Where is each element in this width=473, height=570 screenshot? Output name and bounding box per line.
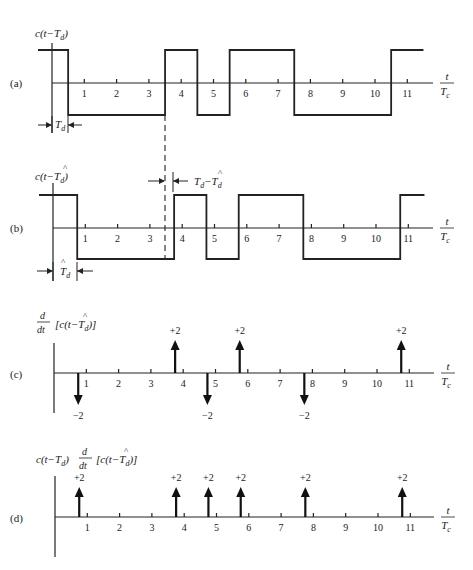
x-tick-label: 8 [309,233,314,244]
arrow-up-icon [236,487,245,497]
x-tick-label: 1 [85,522,90,533]
x-tick-label: 10 [371,233,381,244]
impulse-value-label: +2 [235,472,246,483]
arrow-up-icon [235,340,244,350]
x-tick-label: 10 [373,522,383,533]
x-tick-label: 2 [114,88,119,99]
x-tick-label: 2 [117,522,122,533]
x-axis-label-num: t [446,360,450,372]
ylabel-a: c(t−Td) [35,27,68,42]
svg-text:^: ^ [218,168,223,178]
svg-text:^: ^ [83,311,88,321]
panel-label-b: (b) [10,222,23,235]
x-tick-label: 3 [147,233,152,244]
x-tick-label: 9 [342,378,347,389]
x-tick-label: 10 [372,378,382,389]
x-tick-label: 5 [213,378,218,389]
x-tick-label: 2 [116,378,121,389]
panel-c-impulses: 1234567891011tTc−2+2−2+2−2+2 [54,325,455,421]
impulse-value-label: +2 [203,472,214,483]
arrow-up-icon [75,487,84,497]
impulse-value-label: −2 [202,410,213,421]
td-annotation: Td [38,116,82,133]
x-tick-label: 11 [404,378,414,389]
svg-text:[c(t−Td)]: [c(t−Td)] [96,453,137,468]
svg-text:c(t−Td): c(t−Td) [35,27,68,42]
x-tick-label: 4 [182,522,187,533]
x-tick-label: 4 [180,233,185,244]
panel-d-impulses: 1234567891011tTc+2+2+2+2+2+2 [55,472,455,557]
x-tick-label: 4 [179,88,184,99]
svg-text:d: d [40,310,46,321]
arrow-up-icon [204,487,213,497]
ylabel-d: c(t−Td) d dt [c(t−Td)] ^ [36,446,137,471]
svg-text:c(t−Td): c(t−Td) [36,453,69,468]
x-tick-label: 5 [211,88,216,99]
x-axis-label-den: Tc [440,230,450,245]
svg-text:Td: Td [60,265,71,280]
x-tick-label: 8 [308,88,313,99]
waveform-path [39,195,424,259]
svg-text:d: d [82,446,88,457]
panel-label-c: (c) [10,368,23,381]
ylabel-b: c(t−Td) ^ [35,163,68,185]
x-tick-label: 1 [82,88,87,99]
panel-label-a: (a) [10,77,23,90]
x-tick-label: 9 [340,88,345,99]
x-tick-label: 5 [212,233,217,244]
ylabel-c: d dt [c(t−Td)] ^ [37,310,96,335]
arrow-up-icon [398,487,407,497]
x-tick-label: 8 [311,522,316,533]
x-tick-label: 1 [83,233,88,244]
x-axis-label-den: Tc [441,375,451,390]
panel-a-waveform: 1234567891011tTc [38,43,454,133]
td-hat-annotation: Td ^ [37,257,93,281]
arrow-up-icon [397,340,406,350]
svg-text:dt: dt [37,324,45,335]
impulse-value-label: +2 [171,472,182,483]
x-tick-label: 2 [115,233,120,244]
svg-text:[c(t−Td)]: [c(t−Td)] [55,318,96,333]
panel-b-waveform: 1234567891011tTc [39,183,454,281]
arrow-up-icon [171,340,180,350]
arrow-down-icon [203,395,212,405]
x-tick-label: 7 [277,233,282,244]
x-tick-label: 11 [402,88,412,99]
x-tick-label: 3 [148,378,153,389]
x-tick-label: 11 [403,233,413,244]
x-axis-label-den: Tc [440,85,450,100]
x-tick-label: 11 [405,522,415,533]
x-tick-label: 9 [343,522,348,533]
x-tick-label: 3 [146,88,151,99]
x-tick-label: 1 [84,378,89,389]
x-tick-label: 6 [243,88,248,99]
x-tick-label: 6 [245,378,250,389]
x-tick-label: 9 [341,233,346,244]
arrow-up-icon [301,487,310,497]
impulse-value-label: +2 [234,325,245,336]
svg-text:dt: dt [79,460,87,471]
td-minus-td-hat-annotation: Td−Td ^ [148,168,223,192]
x-tick-label: 4 [181,378,186,389]
x-tick-label: 7 [276,88,281,99]
impulse-value-label: −2 [73,410,84,421]
arrow-down-icon [300,395,309,405]
arrow-up-icon [172,487,181,497]
svg-text:^: ^ [124,446,129,456]
x-tick-label: 7 [278,378,283,389]
figure-canvas: (a) (b) (c) (d) c(t−Td) c(t−Td) ^ d dt [… [0,0,473,570]
x-tick-label: 3 [149,522,154,533]
arrow-down-icon [74,395,83,405]
x-tick-label: 8 [310,378,315,389]
impulse-value-label: +2 [170,325,181,336]
impulse-value-label: +2 [300,472,311,483]
x-tick-label: 5 [214,522,219,533]
x-tick-label: 10 [370,88,380,99]
x-tick-label: 6 [246,522,251,533]
impulse-value-label: −2 [299,410,310,421]
x-axis-label-den: Tc [441,519,451,534]
impulse-value-label: +2 [396,325,407,336]
svg-text:Td: Td [55,118,66,133]
x-axis-label-num: t [446,504,450,516]
x-tick-label: 7 [279,522,284,533]
